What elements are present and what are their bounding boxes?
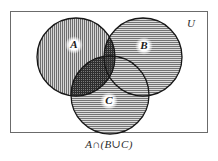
venn-diagram-figure: A B C U A∩(B∪C) — [0, 0, 218, 161]
figure-caption: A∩(B∪C) — [0, 138, 218, 151]
set-label-a: A — [69, 38, 77, 50]
set-label-c: C — [105, 94, 113, 106]
universe-label: U — [187, 17, 196, 29]
set-label-b: B — [139, 39, 147, 51]
venn-diagram-canvas: A B C U — [0, 0, 218, 161]
